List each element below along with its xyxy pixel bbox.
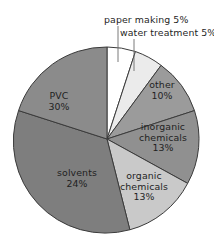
pie-label-pvc: PVC 30% [30,91,88,112]
pie-label-pvc-name: PVC [50,90,69,101]
pie-label-other-value: 10% [151,90,172,101]
pie-label-other-name: other [149,79,174,90]
pie-label-solvents-value: 24% [66,178,87,189]
pie-callout-water-treatment: water treatment 5% [120,27,214,38]
pie-label-organic-chemicals: organic chemicals 13% [110,171,178,203]
pie-label-inorganic-chemicals-value: 13% [152,142,173,153]
pie-label-solvents-name: solvents [57,167,97,178]
pie-label-inorganic-chemicals: inorganic chemicals 13% [126,122,200,154]
pie-label-organic-chemicals-line2: chemicals [120,181,168,192]
pie-chart: PVC 30% solvents 24% organic chemicals 1… [0,0,214,236]
pie-callout-paper-making: paper making 5% [104,14,188,25]
pie-label-other: other 10% [140,80,184,101]
pie-label-solvents: solvents 24% [42,168,112,189]
pie-label-inorganic-chemicals-line1: inorganic [141,121,185,132]
pie-label-inorganic-chemicals-line2: chemicals [139,132,187,143]
pie-label-organic-chemicals-value: 13% [133,191,154,202]
pie-label-organic-chemicals-line1: organic [126,170,162,181]
pie-label-pvc-value: 30% [48,101,69,112]
